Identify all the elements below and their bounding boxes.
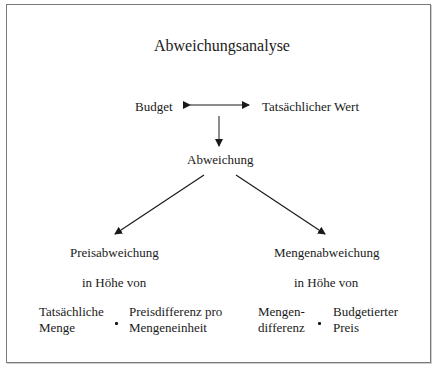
multiply-dot-icon [318, 322, 321, 325]
quantity-factor-a-line1: Mengen- [258, 304, 305, 319]
right-branch-arrow-icon [236, 175, 325, 234]
quantity-factor-b-line2: Preis [333, 320, 359, 335]
price-factor-b-line2: Mengeneinheit [129, 320, 207, 335]
quantity-factor-b-line1: Budgetierter [333, 304, 398, 319]
quantity-variance-label: Mengenabweichung [274, 245, 379, 260]
quantity-variance-subtitle: in Höhe von [294, 275, 358, 290]
price-factor-b-line1: Preisdifferenz pro [129, 304, 222, 319]
multiply-dot-icon [115, 322, 118, 325]
price-factor-a-line1: Tatsächliche [39, 304, 104, 319]
price-factor-a-line2: Menge [39, 320, 75, 335]
quantity-factor-a-line2: differenz [258, 320, 305, 335]
price-variance-label: Preisabweichung [70, 245, 159, 260]
price-variance-subtitle: in Höhe von [82, 275, 146, 290]
left-branch-arrow-icon [115, 175, 204, 234]
